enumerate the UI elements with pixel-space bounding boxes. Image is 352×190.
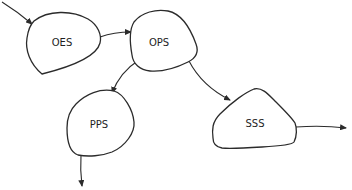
edge-oes-to-ops <box>100 32 131 37</box>
node-oes-label: OES <box>52 37 73 48</box>
edge-entry-to-oes <box>2 2 32 24</box>
node-oes: OES <box>27 12 101 74</box>
edge-pps-exit <box>81 155 82 186</box>
node-ops: OPS <box>130 10 197 71</box>
node-pps: PPS <box>67 90 134 156</box>
edge-sss-exit <box>296 126 346 128</box>
node-ops-label: OPS <box>149 37 169 48</box>
edge-ops-to-sss <box>189 61 230 100</box>
flow-diagram: OES OPS PPS SSS <box>0 0 352 190</box>
edge-ops-to-pps <box>112 60 139 93</box>
node-pps-label: PPS <box>90 119 108 130</box>
node-sss-label: SSS <box>245 118 264 129</box>
